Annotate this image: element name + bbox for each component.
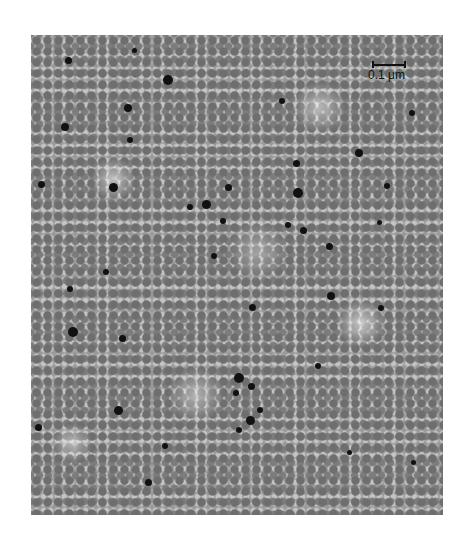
gold-particle xyxy=(109,183,118,192)
gold-particle xyxy=(61,123,69,131)
gold-particle xyxy=(35,424,42,431)
gold-particle xyxy=(327,292,335,300)
gold-particle xyxy=(384,183,390,189)
gold-particle xyxy=(378,305,384,311)
gold-particle xyxy=(38,181,45,188)
gold-particle xyxy=(279,98,285,104)
gold-particle xyxy=(257,407,263,413)
gold-particle xyxy=(225,184,232,191)
gold-particle xyxy=(220,218,226,224)
gold-particle xyxy=(124,104,132,112)
gold-particle xyxy=(162,443,168,449)
gold-particle xyxy=(68,327,78,337)
gold-particle xyxy=(409,110,415,116)
gold-particle xyxy=(246,416,255,425)
gold-particle xyxy=(300,227,307,234)
gold-particle xyxy=(249,304,256,311)
scale-bar-label: 0.1 μm xyxy=(368,68,405,82)
gold-particle xyxy=(145,479,152,486)
gold-particle xyxy=(65,57,72,64)
gold-particle xyxy=(293,188,303,198)
gold-particle xyxy=(127,137,133,143)
gold-particle xyxy=(114,406,123,415)
gold-particle xyxy=(103,269,109,275)
gold-particle xyxy=(119,335,126,342)
gold-particle xyxy=(234,373,244,383)
gold-particle xyxy=(187,204,193,210)
gold-particle xyxy=(315,363,321,369)
gold-particle xyxy=(347,450,352,455)
gold-particle xyxy=(293,160,300,167)
gold-particle xyxy=(411,460,416,465)
gold-particle xyxy=(236,427,242,433)
gold-particle xyxy=(202,200,211,209)
gold-particle xyxy=(67,286,73,292)
micrograph-image xyxy=(31,35,443,515)
gold-particle xyxy=(355,149,363,157)
gold-particle xyxy=(233,390,239,396)
gold-particle xyxy=(248,383,255,390)
gold-particle xyxy=(326,243,333,250)
gold-particle xyxy=(377,220,382,225)
gold-particle xyxy=(285,222,291,228)
scale-bar xyxy=(372,64,406,66)
gold-particle xyxy=(211,253,217,259)
gold-particle xyxy=(163,75,173,85)
gold-particle xyxy=(132,48,137,53)
